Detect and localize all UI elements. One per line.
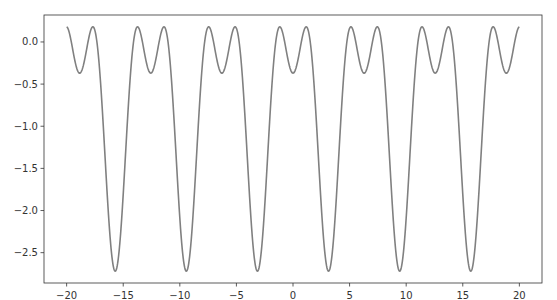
- y-tick-label: −1.5: [14, 163, 38, 174]
- x-tick-label: −10: [169, 290, 190, 300]
- x-axis-ticks: −20−15−10−505101520: [56, 283, 526, 300]
- series-line: [67, 27, 520, 271]
- x-tick-label: −5: [229, 290, 244, 300]
- x-tick-label: 5: [346, 290, 352, 300]
- x-tick-label: −15: [113, 290, 134, 300]
- y-tick-label: −1.0: [14, 121, 38, 132]
- x-tick-label: 10: [400, 290, 413, 300]
- x-tick-label: 15: [456, 290, 469, 300]
- plot-frame: [44, 15, 542, 283]
- line-chart: 0.0−0.5−1.0−1.5−2.0−2.5 −20−15−10−505101…: [0, 0, 557, 300]
- y-tick-label: −0.5: [14, 79, 38, 90]
- y-tick-label: −2.0: [14, 205, 38, 216]
- y-tick-label: −2.5: [14, 247, 38, 258]
- x-tick-label: 20: [513, 290, 526, 300]
- x-tick-label: 0: [290, 290, 296, 300]
- y-tick-label: 0.0: [22, 36, 38, 47]
- x-tick-label: −20: [56, 290, 77, 300]
- y-axis-ticks: 0.0−0.5−1.0−1.5−2.0−2.5: [14, 36, 44, 258]
